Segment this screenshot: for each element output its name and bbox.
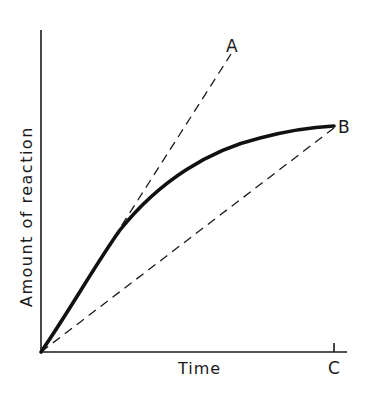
x-axis-label: Time bbox=[177, 359, 221, 378]
reaction-rate-diagram: A B C Time Amount of reaction bbox=[0, 0, 365, 395]
label-a: A bbox=[226, 36, 238, 56]
label-c: C bbox=[328, 358, 340, 378]
chord-line-b bbox=[41, 128, 334, 352]
reaction-curve bbox=[41, 126, 334, 352]
y-axis-label: Amount of reaction bbox=[17, 126, 36, 307]
label-b: B bbox=[338, 117, 350, 137]
